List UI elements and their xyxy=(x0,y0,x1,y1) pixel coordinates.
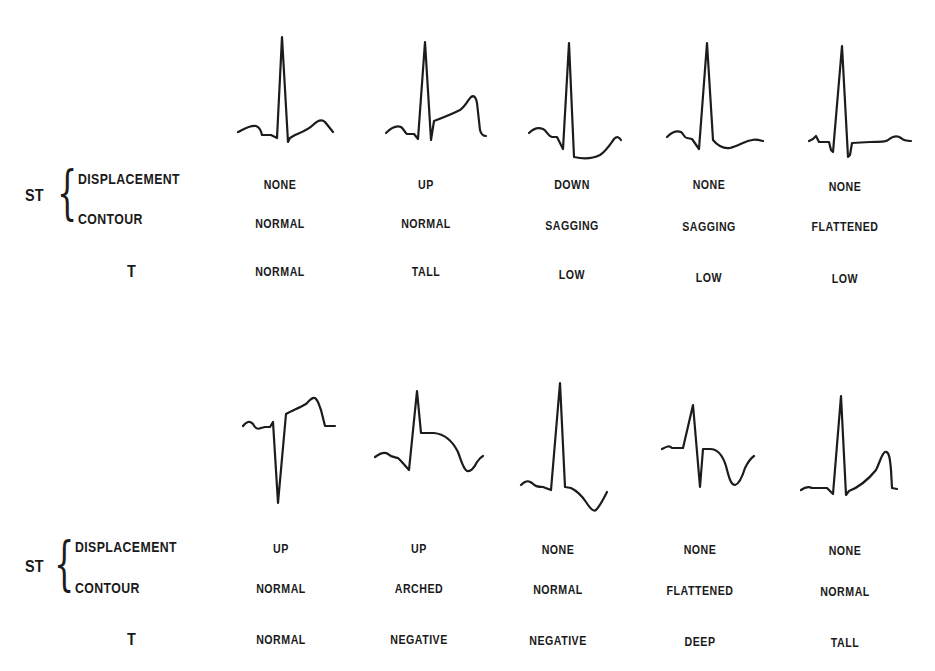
t-wave-value: TALL xyxy=(412,265,440,279)
st-contour-value: NORMAL xyxy=(256,582,306,596)
st-contour-value: NORMAL xyxy=(255,217,305,231)
st-displacement-value: UP xyxy=(273,542,289,556)
ecg-trace-r2-p4 xyxy=(662,405,754,487)
ecg-trace-r1-p3 xyxy=(529,43,621,158)
st-label: ST xyxy=(25,186,43,206)
st-displacement-value: NONE xyxy=(542,543,575,557)
st-contour-value: NORMAL xyxy=(533,583,583,597)
t-wave-value: NORMAL xyxy=(255,265,305,279)
st-displacement-value: NONE xyxy=(829,544,862,558)
t-wave-value: DEEP xyxy=(685,635,716,649)
t-wave-label: T xyxy=(127,262,136,282)
st-displacement-value: UP xyxy=(418,178,434,192)
ecg-waveforms xyxy=(0,0,935,671)
t-wave-value: LOW xyxy=(559,268,585,282)
ecg-trace-r1-p2 xyxy=(386,42,486,140)
st-contour-value: NORMAL xyxy=(820,585,870,599)
ecg-trace-r1-p5 xyxy=(809,46,911,157)
ecg-trace-r1-p4 xyxy=(667,43,763,149)
st-label: ST xyxy=(25,557,43,577)
st-contour-value: NORMAL xyxy=(401,217,451,231)
ecg-trace-r2-p2 xyxy=(375,391,483,471)
ecg-trace-r2-p5 xyxy=(801,396,897,495)
st-contour-label: CONTOUR xyxy=(78,210,143,227)
st-displacement-value: NONE xyxy=(264,178,297,192)
t-wave-value: LOW xyxy=(832,272,858,286)
st-contour-value: FLATTENED xyxy=(667,584,734,598)
st-contour-value: ARCHED xyxy=(395,582,444,596)
t-wave-value: LOW xyxy=(696,271,722,285)
st-displacement-value: UP xyxy=(411,542,427,556)
ecg-trace-r1-p1 xyxy=(238,37,333,142)
brace-icon: { xyxy=(57,164,77,222)
st-displacement-value: NONE xyxy=(829,180,862,194)
brace-icon: { xyxy=(54,535,74,593)
st-displacement-label: DISPLACEMENT xyxy=(78,170,180,187)
st-displacement-value: NONE xyxy=(684,543,717,557)
st-displacement-value: DOWN xyxy=(554,178,590,192)
t-wave-value: NEGATIVE xyxy=(390,633,448,647)
st-displacement-label: DISPLACEMENT xyxy=(75,538,177,555)
ecg-trace-r2-p1 xyxy=(243,398,335,503)
t-wave-value: NEGATIVE xyxy=(529,634,587,648)
t-wave-label: T xyxy=(127,630,136,650)
ecg-trace-r2-p3 xyxy=(521,383,607,511)
st-displacement-value: NONE xyxy=(693,178,726,192)
t-wave-value: NORMAL xyxy=(256,633,306,647)
st-contour-value: FLATTENED xyxy=(812,220,879,234)
t-wave-value: TALL xyxy=(831,636,859,650)
st-contour-label: CONTOUR xyxy=(75,579,140,596)
st-contour-value: SAGGING xyxy=(545,219,599,233)
st-contour-value: SAGGING xyxy=(682,220,736,234)
